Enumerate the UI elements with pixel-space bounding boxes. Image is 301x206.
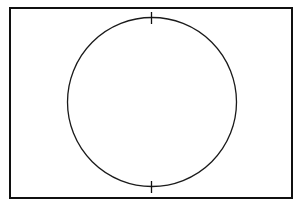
geometry-diagram bbox=[0, 0, 301, 206]
canvas-background bbox=[0, 0, 301, 206]
figure-root bbox=[0, 0, 301, 206]
